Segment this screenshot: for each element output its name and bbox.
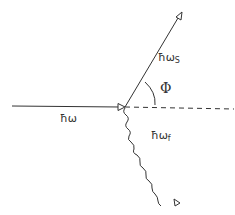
photon-label-text: ħω — [151, 129, 168, 142]
reference-axis-dashed — [125, 107, 234, 109]
angle-arc — [145, 82, 155, 105]
photon-label-subscript: f — [168, 134, 171, 143]
scattered-label: ħωS — [158, 52, 180, 65]
emitted-photon-wavy-line — [124, 108, 161, 206]
angle-label-text: Φ — [160, 80, 171, 96]
scattered-label-subscript: S — [175, 56, 180, 65]
angle-label: Φ — [160, 81, 171, 95]
incident-label: ħω — [60, 113, 77, 124]
incident-label-text: ħω — [60, 112, 77, 125]
photon-arrowhead-icon — [174, 199, 180, 206]
scattering-diagram — [0, 0, 235, 215]
scattered-label-text: ħω — [158, 51, 175, 64]
photon-label: ħωf — [151, 130, 171, 143]
scattered-arrowhead-icon — [176, 12, 182, 20]
incident-line — [12, 106, 120, 107]
